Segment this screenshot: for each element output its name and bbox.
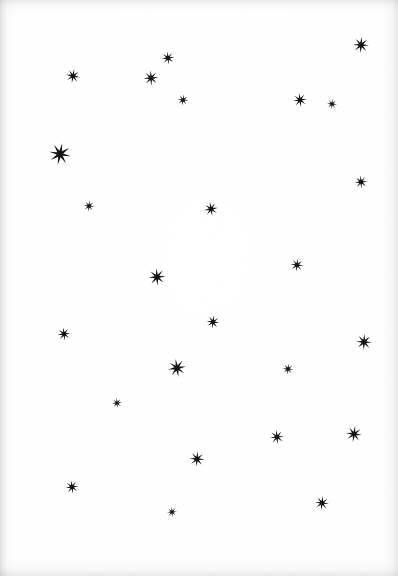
eight-pointed-star-icon [65,480,80,495]
star-field [0,0,398,576]
eight-pointed-star-icon [206,315,221,330]
eight-pointed-star-icon [148,268,166,286]
eight-pointed-star-icon [47,141,73,167]
eight-pointed-star-icon [167,358,188,379]
page-edge-bottom [0,560,398,576]
eight-pointed-star-icon [345,425,363,443]
page-edge-left [0,0,14,576]
page-edge-right [382,0,398,576]
eight-pointed-star-icon [282,363,294,375]
eight-pointed-star-icon [290,258,304,272]
page-edge-top [0,0,398,12]
star-page [0,0,398,576]
eight-pointed-star-icon [189,451,205,467]
eight-pointed-star-icon [161,51,175,65]
eight-pointed-star-icon [167,507,178,518]
eight-pointed-star-icon [112,398,123,409]
eight-pointed-star-icon [65,68,81,84]
eight-pointed-star-icon [57,327,71,341]
eight-pointed-star-icon [314,495,330,511]
eight-pointed-star-icon [203,201,219,217]
eight-pointed-star-icon [356,334,373,351]
eight-pointed-star-icon [292,92,308,108]
eight-pointed-star-icon [327,99,338,110]
eight-pointed-star-icon [269,429,284,444]
eight-pointed-star-icon [177,94,189,106]
eight-pointed-star-icon [354,175,368,189]
eight-pointed-star-icon [83,200,95,212]
eight-pointed-star-icon [143,70,159,86]
eight-pointed-star-icon [352,36,369,53]
